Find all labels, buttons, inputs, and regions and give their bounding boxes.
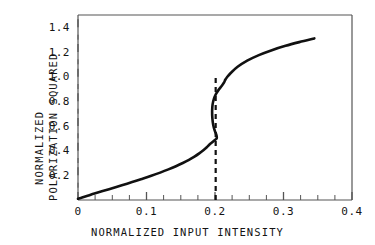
x-tick-label: 0.4 [332,206,372,217]
x-tick-label: 0 [60,206,96,217]
y-axis-title-line-2: POLARIZATION SQUARED [47,53,59,201]
figure: 1.4 1.2 1.0 0.8 0.6 0.4 0.2 0 0.1 0.2 0.… [0,0,375,245]
x-tick-label: 0.3 [264,206,304,217]
data-curve [78,38,314,198]
y-axis-title-line-1: NORMALIZED [33,111,45,185]
y-tick-label: 1.4 [26,22,70,33]
x-axis-title: NORMALIZED INPUT INTENSITY [0,226,375,238]
x-tick-label: 0.1 [127,206,167,217]
x-tick-label: 0.2 [195,206,235,217]
